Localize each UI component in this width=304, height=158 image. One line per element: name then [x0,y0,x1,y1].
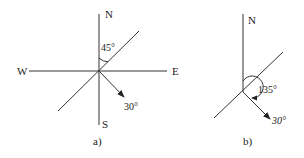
vector-arrow [99,71,124,97]
label-east: E [172,65,179,77]
angle-label-135: 135° [258,84,277,95]
figure-a: N S W E 45° 30° a) [17,8,179,148]
angle-arc-45 [99,58,108,62]
vector-angle-label: 30° [124,101,138,112]
vector-arrow [243,92,270,119]
figure-b: N 135° 30° b) [214,14,286,148]
angle-label-45: 45° [101,42,115,53]
caption-b: b) [243,135,253,148]
label-north: N [105,8,113,20]
label-south: S [102,118,108,130]
diagram-canvas: N S W E 45° 30° a) N 135° 30° b) [0,0,304,158]
label-north: N [248,14,256,26]
caption-a: a) [93,135,102,148]
vector-angle-label: 30° [271,115,286,126]
label-west: W [17,65,28,77]
